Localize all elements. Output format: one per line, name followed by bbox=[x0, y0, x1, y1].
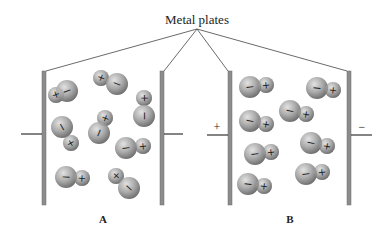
polar-molecule: −+ bbox=[295, 163, 330, 185]
plate-a-right bbox=[160, 71, 164, 205]
negative-sign: − bbox=[61, 170, 71, 184]
negative-sign: − bbox=[312, 81, 323, 95]
molecules-a: −+−+−+−+−+−+−+−+ bbox=[48, 70, 155, 199]
polar-molecule: −+ bbox=[51, 116, 79, 151]
molecules-b: −+−+−+−+−+−+−+−+ bbox=[237, 76, 341, 195]
polar-molecule: −+ bbox=[108, 168, 140, 199]
polar-molecule: −+ bbox=[300, 132, 335, 154]
negative-sign: − bbox=[121, 141, 132, 155]
negative-sign: − bbox=[250, 147, 261, 161]
polar-molecule: −+ bbox=[244, 143, 279, 165]
positive-sign: + bbox=[317, 166, 327, 178]
polar-molecule: −+ bbox=[306, 77, 341, 99]
terminal-b-right-sign: − bbox=[359, 120, 366, 134]
plate-b-left bbox=[228, 71, 232, 205]
panel-b-label: B bbox=[286, 213, 294, 225]
positive-sign: + bbox=[139, 94, 150, 102]
polar-molecule: −+ bbox=[239, 110, 274, 132]
polar-molecule: −+ bbox=[239, 76, 274, 98]
panel-b: + − −+−+−+−+−+−+−+−+ B bbox=[207, 71, 372, 225]
polar-molecule: −+ bbox=[55, 166, 90, 188]
plate-b-right bbox=[347, 71, 351, 205]
polar-molecule: −+ bbox=[93, 70, 128, 95]
polar-molecule: −+ bbox=[48, 80, 78, 103]
polar-molecule: −+ bbox=[133, 90, 155, 127]
leader-lines bbox=[46, 29, 347, 71]
polar-molecule: −+ bbox=[237, 173, 272, 195]
positive-sign: + bbox=[328, 84, 338, 96]
positive-sign: + bbox=[138, 140, 148, 152]
negative-sign: − bbox=[243, 177, 254, 191]
metal-plates-label: Metal plates bbox=[165, 12, 229, 27]
negative-sign: − bbox=[301, 167, 312, 181]
polar-molecule: −+ bbox=[88, 110, 113, 144]
negative-sign: − bbox=[245, 80, 256, 94]
positive-sign: + bbox=[259, 180, 269, 192]
positive-sign: + bbox=[261, 79, 271, 91]
polar-molecule: −+ bbox=[279, 100, 314, 122]
positive-sign: + bbox=[77, 172, 86, 184]
panel-a-label: A bbox=[99, 213, 107, 225]
terminal-b-left-sign: + bbox=[214, 120, 221, 134]
negative-sign: − bbox=[138, 111, 151, 120]
panel-a: −+−+−+−+−+−+−+−+ A bbox=[21, 70, 183, 225]
positive-sign: + bbox=[266, 146, 276, 158]
plate-a-left bbox=[42, 71, 46, 205]
polar-molecule: −+ bbox=[115, 137, 151, 159]
capacitor-dielectric-diagram: Metal plates −+−+−+−+−+−+−+−+ A + − −+−+… bbox=[0, 0, 389, 234]
